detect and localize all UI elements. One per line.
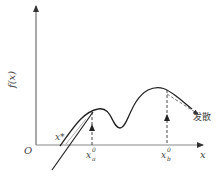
xa-subscript: a: [92, 155, 96, 162]
up-arrow-b-icon: [164, 114, 170, 121]
tangent-line-b: [167, 94, 198, 114]
tangent-line-a-parallel: [66, 119, 86, 144]
xa-label: x: [86, 150, 91, 160]
divergence-label: 发散: [193, 111, 211, 122]
x-axis-label: x: [200, 149, 206, 160]
root-label: x*: [55, 132, 65, 142]
xb-subscript: b: [167, 155, 171, 162]
origin-label: O: [24, 145, 32, 156]
xa-superscript: 0: [92, 146, 96, 153]
xb-label: x: [161, 150, 166, 160]
y-axis-label: f(x): [6, 71, 17, 89]
up-arrow-a-icon: [89, 124, 95, 131]
function-curve: [60, 88, 192, 146]
newton-method-diagram: f(x) O x x* x 0 a x 0 b 发散: [0, 0, 220, 180]
xb-superscript: 0: [167, 146, 171, 153]
